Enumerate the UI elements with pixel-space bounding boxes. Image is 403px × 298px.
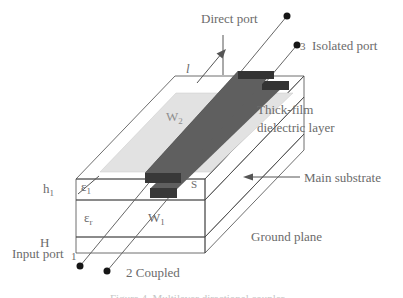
thick-film-label-line1: Thick-film [257,102,313,117]
isolated-port-label: Isolated port [312,38,378,53]
epsr-label: εr [84,210,92,227]
top-strip-front-end-face [145,173,181,183]
dielectric-front-face [76,179,205,200]
top-strip-back-end-face [238,71,274,79]
input-port-number: 1 [71,250,77,262]
eps1-label: ε1 [81,179,91,196]
length-arrow-line [197,53,222,83]
main-substrate-label: Main substrate [304,170,381,185]
coupled-port-dot [104,268,111,275]
isolated-port-number: 3 [300,40,306,52]
thick-film-label-line2: dielectric layer [257,120,335,135]
caption-cropped: Figure 4. Multilayer directional coupler [110,291,325,298]
buried-strip-back-end-face [262,81,289,90]
gap-s-label: S [191,178,197,190]
main-substrate-arrowhead-icon [243,174,253,181]
coupler-figure: Direct port 3 Isolated port l Thick-film… [0,0,403,298]
input-port-dot [77,263,84,270]
coupler-diagram: Direct port 3 Isolated port l Thick-film… [0,0,403,298]
input-port-label: Input port [12,246,64,261]
length-symbol: l [186,61,190,76]
ground-plane-front-face [76,237,205,253]
coupled-port-label: 2 Coupled [126,265,180,280]
h1-dimension-label: h1 [43,181,54,198]
w1-width-label: W1 [148,210,165,227]
ground-plane-label: Ground plane [251,229,322,244]
length-arrowhead-icon [217,49,227,59]
direct-port-label: Direct port [201,11,258,26]
buried-strip-front-end-face [150,188,177,198]
direct-port-dot [284,13,291,20]
